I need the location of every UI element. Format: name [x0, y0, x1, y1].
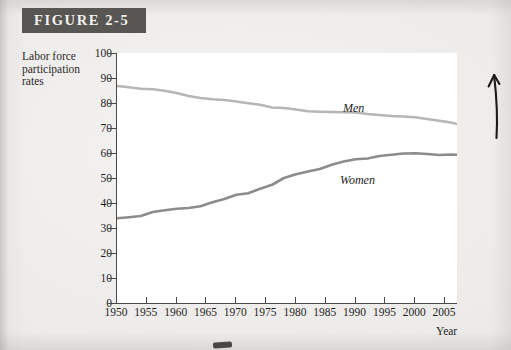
y-tick-mark	[108, 228, 116, 229]
y-tick-mark	[108, 53, 116, 54]
chart-lines-svg	[117, 53, 457, 303]
x-tick-mark	[235, 297, 236, 304]
x-tick-label: 1995	[373, 306, 396, 318]
series-line-men	[117, 86, 457, 124]
x-axis-title: Year	[436, 325, 457, 337]
x-tick-label: 2005	[433, 306, 456, 318]
x-axis-tick-labels: 1950195519601965197019751980198519901995…	[116, 306, 456, 322]
up-arrow-annotation-icon	[480, 62, 506, 140]
x-tick-mark	[295, 297, 296, 304]
figure-banner: FIGURE 2-5	[22, 8, 146, 33]
x-tick-label: 2000	[403, 306, 426, 318]
scan-artifact-mark	[213, 342, 232, 349]
x-tick-mark	[176, 297, 177, 304]
scanned-figure-page: FIGURE 2-5 Labor force participation rat…	[0, 0, 511, 350]
x-tick-mark	[414, 297, 415, 304]
x-tick-label: 1985	[313, 306, 336, 318]
x-axis-tick-marks	[116, 297, 456, 305]
x-tick-label: 1990	[343, 306, 366, 318]
y-tick-mark	[108, 253, 116, 254]
x-tick-mark	[205, 297, 206, 304]
x-tick-mark	[384, 297, 385, 304]
x-tick-mark	[444, 297, 445, 304]
y-tick-mark	[108, 153, 116, 154]
y-axis-tick-marks	[108, 53, 117, 303]
x-tick-mark	[265, 297, 266, 304]
x-tick-label: 1975	[254, 306, 277, 318]
x-tick-label: 1980	[283, 306, 306, 318]
series-line-women	[117, 153, 457, 218]
figure-number-label: FIGURE 2-5	[22, 12, 129, 29]
y-tick-mark	[108, 278, 116, 279]
y-tick-mark	[108, 178, 116, 179]
chart-plot-area	[116, 53, 457, 304]
x-tick-mark	[116, 297, 117, 304]
x-tick-mark	[355, 297, 356, 304]
y-tick-mark	[108, 78, 116, 79]
y-tick-mark	[108, 103, 116, 104]
x-tick-mark	[146, 297, 147, 304]
x-tick-label: 1965	[194, 306, 217, 318]
y-tick-mark	[108, 203, 116, 204]
x-tick-label: 1960	[164, 306, 187, 318]
y-tick-mark	[108, 303, 116, 304]
y-tick-mark	[108, 128, 116, 129]
x-tick-label: 1955	[134, 306, 157, 318]
y-axis-title: Labor force participation rates	[22, 50, 92, 88]
x-tick-label: 1970	[224, 306, 247, 318]
series-label-men: Men	[343, 101, 364, 116]
x-tick-mark	[325, 297, 326, 304]
series-label-women: Women	[340, 173, 375, 188]
x-tick-label: 1950	[105, 306, 128, 318]
